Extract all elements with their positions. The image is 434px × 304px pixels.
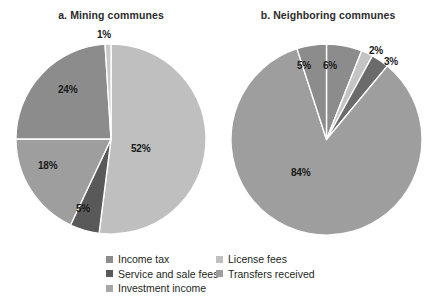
legend-item-label: Investment income: [118, 283, 206, 294]
chart-legend: Income taxService and sale feesInvestmen…: [106, 252, 346, 298]
legend-item[interactable]: License fees: [216, 252, 315, 267]
pie-a-slice-value: 1%: [97, 29, 111, 40]
pie-b-slice-value: 84%: [291, 167, 310, 178]
legend-item[interactable]: Service and sale fees: [106, 267, 218, 282]
legend-item-label: License fees: [228, 254, 287, 265]
pie-b-slice-value: 2%: [369, 45, 383, 56]
pie-chart-a: [13, 41, 209, 237]
legend-item-label: Service and sale fees: [118, 269, 218, 280]
legend-swatch-income-tax: [106, 256, 113, 263]
pie-a-slice-value: 5%: [76, 203, 90, 214]
pie-b-slice-value: 6%: [323, 60, 337, 71]
legend-swatch-service-and-sale-fees: [106, 270, 113, 277]
legend-item-label: Income tax: [118, 254, 169, 265]
pie-b-slice-value: 3%: [384, 56, 398, 67]
legend-swatch-transfers-received: [216, 270, 223, 277]
legend-item[interactable]: Investment income: [106, 281, 218, 296]
panel-a-title: a. Mining communes: [0, 9, 222, 21]
pie-chart-figure: a. Mining communes b. Neighboring commun…: [0, 0, 434, 304]
pie-slice: [99, 44, 206, 234]
pie-a-slice-value: 52%: [131, 143, 150, 154]
legend-item[interactable]: Income tax: [106, 252, 218, 267]
pie-a-slice-value: 18%: [38, 160, 57, 171]
legend-swatch-license-fees: [216, 256, 223, 263]
pie-a-svg: [13, 41, 209, 237]
pie-b-slice-value: 5%: [297, 60, 311, 71]
pie-a-slice-value: 24%: [58, 84, 77, 95]
panel-b-title: b. Neighboring communes: [222, 9, 434, 21]
legend-item[interactable]: Transfers received: [216, 267, 315, 282]
legend-column-left: Income taxService and sale feesInvestmen…: [106, 252, 218, 296]
legend-item-label: Transfers received: [228, 269, 315, 280]
legend-swatch-investment-income: [106, 285, 113, 292]
legend-column-right: License feesTransfers received: [216, 252, 315, 281]
